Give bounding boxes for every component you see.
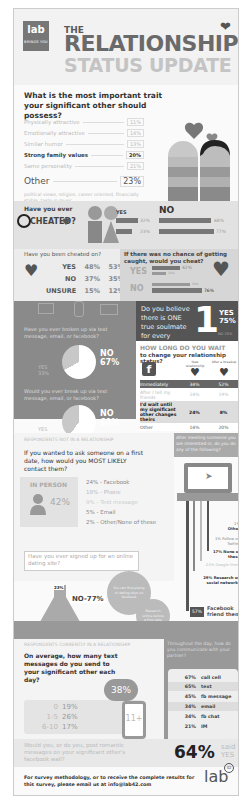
connector-line — [186, 501, 189, 611]
broken-heart-icon: ❤ — [220, 19, 231, 34]
wait-title: HOW LONG DO YOU WAIT — [140, 344, 225, 351]
after-meeting-item: 1% Follow on Twitter — [204, 536, 239, 546]
after-meeting-item: 29% Research on social networks — [192, 575, 239, 585]
cheated-on-question: Have you been cheated on? — [24, 251, 101, 257]
breakup-question-2: Would you ever break up via text message… — [24, 388, 130, 402]
breakup-yes-1: YES33% — [38, 364, 49, 376]
cheated-yes-pct: 23% — [140, 229, 150, 234]
title-status-update: STATUS UPDATE — [64, 54, 231, 76]
cheated-no-pct: 68% — [214, 218, 224, 223]
magnifier-icon — [17, 214, 31, 228]
divider-band — [14, 621, 239, 639]
trait-row: Strong family values20% — [24, 150, 144, 160]
soulmate-one: 1 — [194, 299, 219, 340]
would-cheat-bar — [152, 288, 202, 293]
breakup-pie-1 — [62, 345, 96, 379]
connector-line — [200, 501, 202, 561]
communicate-row: 67%call cell — [168, 673, 238, 682]
connector-line — [193, 501, 195, 571]
trait-row: Emotionally attractive14% — [24, 128, 144, 138]
trait-row: Same personality21% — [24, 161, 144, 171]
communicate-row: 21%IM — [168, 722, 238, 731]
would-cheat-no-label: NO — [130, 284, 144, 293]
communicate-row: 34%fb chat — [168, 712, 238, 721]
cheated-on-row: NO37%35% — [46, 275, 126, 283]
communicate-question: Throughout the day, how do you communica… — [167, 641, 237, 659]
contact-item: 24% - Facebook — [86, 479, 130, 485]
infographic: lab BRINGS YOU THE RELATIONSHIP STATUS U… — [13, 8, 239, 796]
contact-item: 5% - Email — [86, 509, 115, 515]
wait-col-breakup: After a breakup — [211, 360, 237, 364]
heart-icon: ♥ — [182, 366, 208, 379]
wait-row: Immediately34%52% — [140, 380, 238, 388]
facebook-icon: f — [142, 362, 156, 376]
texts-row: 019% — [38, 703, 78, 711]
laptop-base — [177, 493, 239, 501]
communicate-row: 45%fb message — [168, 692, 238, 701]
dating-no-pct: NO-77% — [70, 595, 106, 603]
cheated-on-row: YES48%53% — [46, 263, 126, 271]
after-meeting-item: 1%Other — [210, 521, 239, 531]
trait-row: Similar humor13% — [24, 139, 144, 149]
would-cheat-yes-label: YES — [130, 267, 147, 276]
texts-row: 1-526% — [38, 713, 78, 721]
lab-logo: lab BRINGS YOU — [23, 21, 49, 51]
texts-top-pct-bubble: 38% — [104, 679, 138, 701]
cheated-on-row: UNSURE15%12% — [46, 287, 126, 295]
breakup-no-1: NO67% — [100, 349, 119, 367]
facebook-friend-pct: 57% — [190, 607, 204, 617]
communicate-row: 65%text — [168, 682, 238, 691]
texts-question: On average, how many text messages do yo… — [24, 652, 124, 684]
section-label: RESPONDENTS NOT IN A RELATIONSHIP — [24, 437, 113, 442]
would-cheat-pct: 24% — [168, 271, 175, 275]
wait-row: Other14%20% — [140, 423, 238, 431]
cheated-no-bar — [159, 229, 214, 234]
romantic-said-yes: saidYES — [221, 743, 235, 759]
would-cheat-bar — [152, 272, 166, 275]
after-meeting-item: 17% None of these — [204, 549, 239, 559]
texts-row: 6-1017% — [38, 723, 78, 731]
romantic-question: Would you, or do you, post romantic mess… — [24, 742, 149, 763]
in-person-pct: 42% — [50, 497, 70, 507]
cheated-yes-bar — [116, 229, 132, 234]
contact-item: 2% - Other/None of these — [86, 519, 156, 525]
cheated-no-bar — [159, 218, 211, 223]
wait-row: After I tell my friends24%19% — [140, 389, 238, 400]
would-cheat-bar — [152, 283, 190, 286]
cheated-no-pct: 77% — [216, 229, 226, 234]
person-icon — [30, 493, 46, 515]
logo-text: lab — [23, 21, 49, 39]
heart-icon: ♥ — [62, 217, 70, 227]
after-meeting-question: After meeting someone you are interested… — [176, 435, 238, 453]
breakup-question-1: Have you ever broken up via text message… — [24, 326, 130, 340]
trait-row: Other23% — [24, 174, 144, 188]
envelope-icon — [100, 304, 118, 315]
soulmate-no: NO 25% — [218, 332, 232, 336]
cheated-no-label: NO — [159, 205, 174, 215]
title-relationship: RELATIONSHIP — [64, 31, 238, 56]
wait-row: I'd wait until my significant other chan… — [140, 401, 238, 423]
phone-icon: 11+ — [122, 701, 146, 739]
after-meeting-item: 24% Google them — [199, 562, 239, 567]
cheated-title-1: Have you ever — [24, 205, 73, 212]
cheated-yes-pct: 32% — [140, 218, 150, 223]
dating-question: Have you ever signed up for an online da… — [28, 553, 136, 567]
couple-illustration — [164, 121, 234, 201]
would-cheat-pct: 42% — [182, 265, 192, 270]
soulmate-yes: YES75% — [219, 309, 236, 325]
section-label: RESPONDENTS CURRENTLY IN A RELATIONSHIP — [24, 642, 130, 647]
dating-yes-pct: 23% — [54, 585, 64, 590]
phone-icon — [74, 301, 84, 317]
laptop-icon — [38, 303, 54, 314]
broken-heart-icon: ♥ — [24, 261, 38, 280]
would-cheat-bar — [152, 266, 180, 270]
communicate-row: 34%email — [168, 702, 238, 711]
footer-text: For survey methodology, or to receive th… — [24, 774, 199, 788]
couple-icon — [86, 203, 120, 245]
would-cheat-pct: 76% — [204, 288, 214, 293]
breakup-no-2: NO60% — [100, 409, 119, 427]
in-person-label: IN PERSON — [30, 481, 67, 488]
logo-subtext: BRINGS YOU — [23, 39, 49, 45]
would-cheat-pct: 58% — [192, 282, 199, 286]
cursor-icon: ➤ — [205, 471, 213, 481]
